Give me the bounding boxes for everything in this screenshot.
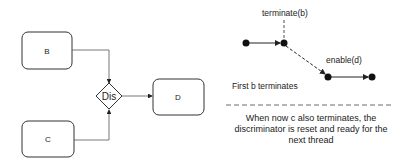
caption-first-b: First b terminates [232,81,298,91]
timeline-dot-1 [243,40,250,47]
node-b-label: B [44,47,49,56]
terminate-label: terminate(b) [262,8,308,18]
edge-c-dis [74,110,109,140]
timeline-dot-2 [281,40,288,47]
timeline-dot-4 [369,74,376,81]
node-c-label: C [45,135,51,144]
enable-label: enable(d) [326,55,362,65]
discriminator-label: Dis [102,91,116,102]
node-d-label: D [175,93,181,102]
note-text: When now c also terminates, the discrimi… [228,113,394,146]
timeline-dot-3 [325,74,332,81]
timeline-edge-dashed [286,46,325,74]
edge-b-dis [72,50,109,83]
